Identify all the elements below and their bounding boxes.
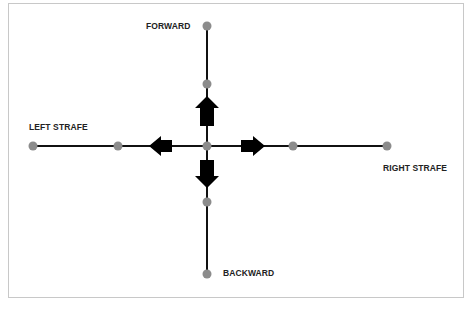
label-right-strafe: RIGHT STRAFE — [383, 163, 447, 173]
node-right-mid — [289, 142, 298, 151]
node-forward-end — [203, 22, 212, 31]
node-left-end — [29, 142, 38, 151]
movement-diagram — [0, 0, 471, 309]
label-backward: BACKWARD — [223, 268, 274, 278]
node-forward-mid — [203, 80, 212, 89]
node-backward-end — [203, 270, 212, 279]
arrow-up-icon — [195, 96, 219, 126]
label-left-strafe: LEFT STRAFE — [29, 122, 88, 132]
label-forward: FORWARD — [146, 21, 190, 31]
node-center — [203, 142, 212, 151]
node-backward-mid — [203, 198, 212, 207]
node-right-end — [383, 142, 392, 151]
node-left-mid — [114, 142, 123, 151]
arrow-left-icon — [149, 136, 172, 156]
arrow-down-icon — [195, 160, 219, 188]
arrow-right-icon — [241, 136, 265, 156]
